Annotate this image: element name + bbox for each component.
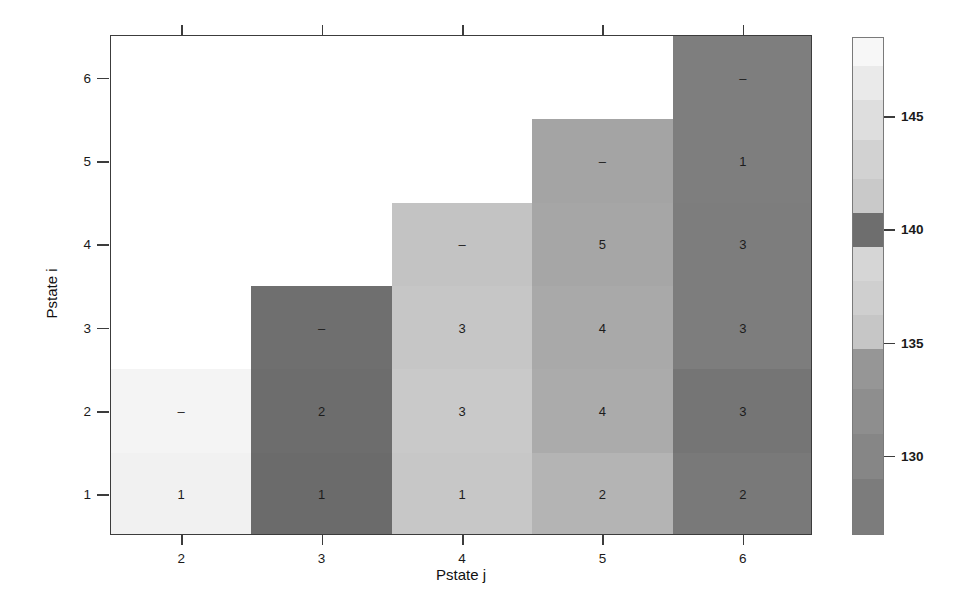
colorbar-tick-mark <box>884 229 895 231</box>
y-axis-label: Pstate i <box>43 219 60 369</box>
cell-value-label: 5 <box>532 237 672 252</box>
colorbar-tick-mark <box>884 343 895 345</box>
y-tick-mark <box>97 78 109 80</box>
colorbar-band <box>853 315 883 349</box>
cell-value-label: 3 <box>673 320 811 335</box>
cell-value-label: 4 <box>532 404 672 419</box>
x-tick-mark <box>743 534 745 545</box>
x-tick-mark <box>462 534 464 545</box>
cell-value-label: 2 <box>532 487 672 502</box>
x-tick-mark-top <box>322 25 324 36</box>
cell-value-label: – <box>532 154 672 169</box>
x-axis-label: Pstate j <box>110 566 812 583</box>
y-tick-mark <box>97 328 109 330</box>
x-tick-label: 6 <box>739 551 747 566</box>
colorbar-tick-mark <box>884 116 895 118</box>
colorbar-band <box>853 434 883 479</box>
colorbar-tick-label: 135 <box>901 335 924 350</box>
colorbar-band <box>853 247 883 281</box>
y-tick-mark <box>97 244 109 246</box>
y-tick-label: 1 <box>83 487 91 502</box>
colorbar-band <box>853 389 883 434</box>
cell-value-label: 3 <box>392 404 532 419</box>
cell-value-label: 2 <box>673 487 811 502</box>
x-tick-mark-top <box>602 25 604 36</box>
x-tick-mark-top <box>743 25 745 36</box>
x-tick-mark <box>322 534 324 545</box>
cell-value-label: – <box>392 237 532 252</box>
x-tick-mark-top <box>181 25 183 36</box>
cell-value-label: 3 <box>392 320 532 335</box>
y-tick-mark <box>97 494 109 496</box>
cell-value-label: 3 <box>673 237 811 252</box>
colorbar-band <box>853 179 883 213</box>
colorbar-tick-label: 130 <box>901 448 924 463</box>
colorbar-tick-label: 140 <box>901 222 924 237</box>
colorbar-tick-mark <box>884 456 895 458</box>
colorbar-band <box>853 349 883 389</box>
x-tick-mark <box>181 534 183 545</box>
x-tick-label: 4 <box>458 551 466 566</box>
colorbar-tick-label: 145 <box>901 109 924 124</box>
plot-area: 1–12–133–2445–23331– 12345623456 <box>110 35 812 535</box>
y-tick-mark <box>97 161 109 163</box>
cell-value-label: – <box>673 70 811 85</box>
cell-value-label: 1 <box>673 154 811 169</box>
cell-value-label: 3 <box>673 404 811 419</box>
x-tick-label: 3 <box>318 551 326 566</box>
y-tick-label: 3 <box>83 320 91 335</box>
y-tick-label: 5 <box>83 154 91 169</box>
y-tick-mark <box>97 411 109 413</box>
y-tick-label: 6 <box>83 70 91 85</box>
x-tick-mark-top <box>462 25 464 36</box>
y-tick-label: 4 <box>83 237 91 252</box>
cell-value-label: 2 <box>251 404 391 419</box>
cell-value-label: – <box>111 404 251 419</box>
x-tick-mark <box>602 534 604 545</box>
heatmap-cells: 1–12–133–2445–23331– <box>111 36 811 534</box>
colorbar-band <box>853 479 883 535</box>
colorbar-band <box>853 66 883 100</box>
x-tick-label: 2 <box>177 551 185 566</box>
y-tick-label: 2 <box>83 404 91 419</box>
cell-value-label: 1 <box>111 487 251 502</box>
cell-value-label: 1 <box>251 487 391 502</box>
heatmap-figure: 1–12–133–2445–23331– 12345623456 Pstate … <box>0 0 975 608</box>
cell-value-label: 4 <box>532 320 672 335</box>
cell-value-label: 1 <box>392 487 532 502</box>
colorbar-band <box>853 38 883 66</box>
colorbar-band <box>853 140 883 180</box>
colorbar-band <box>853 213 883 247</box>
colorbar <box>852 37 884 535</box>
colorbar-band <box>853 100 883 140</box>
x-tick-label: 5 <box>599 551 607 566</box>
cell-value-label: – <box>251 320 391 335</box>
colorbar-band <box>853 281 883 315</box>
